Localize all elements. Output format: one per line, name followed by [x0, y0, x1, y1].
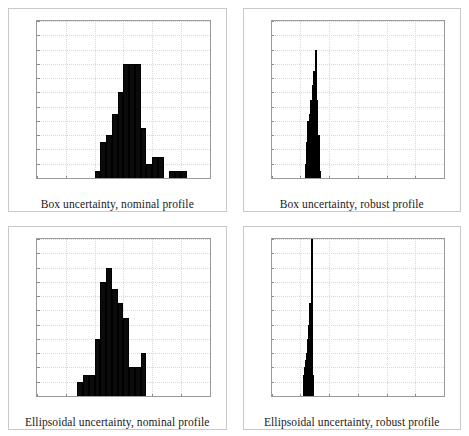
plot-area-ellipsoidal-robust: 024681012141618202210152025303540 — [251, 234, 454, 413]
histogram-bar — [181, 171, 187, 178]
histogram-bar — [312, 375, 314, 396]
x-tick-mark — [210, 394, 211, 397]
histogram-bars — [37, 21, 210, 178]
panel-caption-box-nominal: Box uncertainty, nominal profile — [6, 195, 229, 214]
panel-caption-ellipsoidal-robust: Ellipsoidal uncertainty, robust profile — [241, 413, 464, 432]
x-tick-mark — [444, 176, 445, 179]
axes-ellipsoidal-robust: 024681012141618202210152025303540 — [271, 238, 446, 397]
histogram-bar — [141, 353, 147, 396]
plot-ellipsoidal-nominal: 024681012141618202210152025303540 — [36, 238, 211, 397]
panel-caption-box-robust: Box uncertainty, robust profile — [241, 195, 464, 214]
histogram-bars — [37, 239, 210, 396]
figure-grid: 024681012141618202210152025303540 Box un… — [0, 0, 469, 436]
y-tick-mark — [37, 178, 40, 179]
histogram-bar — [311, 239, 313, 396]
x-tick-mark — [210, 176, 211, 179]
panel-box-robust: 024681012141618202210152025303540 Box un… — [235, 0, 469, 218]
panel-ellipsoidal-robust: 024681012141618202210152025303540 Ellips… — [235, 218, 469, 436]
plot-ellipsoidal-robust: 024681012141618202210152025303540 — [271, 238, 446, 397]
histogram-bar — [158, 157, 164, 178]
axes-box-nominal: 024681012141618202210152025303540 — [36, 20, 211, 179]
axes-box-robust: 024681012141618202210152025303540 — [271, 20, 446, 179]
plot-area-ellipsoidal-nominal: 024681012141618202210152025303540 — [16, 234, 219, 413]
x-tick-mark — [444, 394, 445, 397]
panel-caption-ellipsoidal-nominal: Ellipsoidal uncertainty, nominal profile — [6, 413, 229, 432]
histogram-bars — [272, 21, 445, 178]
y-tick-mark — [37, 396, 40, 397]
plot-box-robust: 024681012141618202210152025303540 — [271, 20, 446, 179]
panel-box-nominal: 024681012141618202210152025303540 Box un… — [0, 0, 235, 218]
plot-box-nominal: 024681012141618202210152025303540 — [36, 20, 211, 179]
panel-ellipsoidal-nominal: 024681012141618202210152025303540 Ellips… — [0, 218, 235, 436]
y-tick-mark — [272, 178, 275, 179]
plot-area-box-nominal: 024681012141618202210152025303540 — [16, 16, 219, 195]
histogram-bar — [319, 171, 321, 178]
plot-area-box-robust: 024681012141618202210152025303540 — [251, 16, 454, 195]
axes-ellipsoidal-nominal: 024681012141618202210152025303540 — [36, 238, 211, 397]
histogram-bars — [272, 239, 445, 396]
y-tick-mark — [272, 396, 275, 397]
